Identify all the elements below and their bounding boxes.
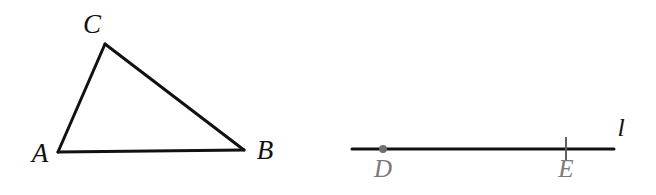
vertex-label-b: B	[257, 135, 274, 165]
point-d-dot	[379, 145, 387, 153]
line-label-l: l	[617, 113, 624, 142]
triangle-abc: C A B	[30, 9, 274, 168]
segment-cb	[105, 44, 244, 150]
figure-canvas: C A B D E l	[0, 0, 656, 195]
geometry-figure: C A B D E l	[0, 0, 656, 195]
segment-ab	[58, 150, 244, 152]
point-label-d: D	[373, 155, 392, 182]
line-l-group: D E l	[352, 113, 625, 182]
segment-ca	[58, 44, 105, 152]
vertex-label-a: A	[30, 138, 49, 168]
vertex-label-c: C	[83, 9, 102, 39]
point-label-e: E	[557, 155, 573, 182]
